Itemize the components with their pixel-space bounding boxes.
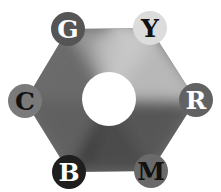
node-R: R <box>179 83 213 117</box>
node-C: C <box>8 84 42 118</box>
node-M: M <box>134 154 168 188</box>
node-G: G <box>51 12 85 46</box>
node-label: R <box>186 86 207 115</box>
color-hexagon-diagram: G Y R M B C <box>0 0 221 192</box>
node-label: M <box>137 157 165 186</box>
node-label: Y <box>140 14 160 43</box>
node-label: C <box>15 87 35 116</box>
center-hole <box>82 72 136 126</box>
node-label: B <box>58 158 79 187</box>
node-Y: Y <box>133 11 167 45</box>
node-label: G <box>57 15 78 44</box>
node-B: B <box>52 155 86 189</box>
